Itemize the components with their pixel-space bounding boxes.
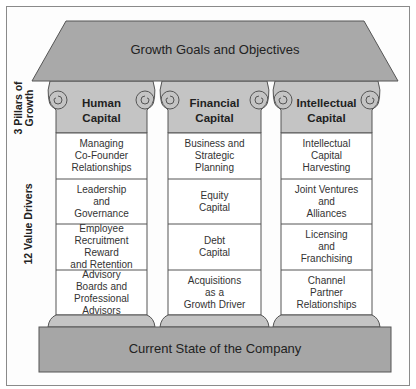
value-driver-cell: Joint VenturesandAlliances (281, 179, 372, 224)
value-driver-cell: LeadershipandGovernance (56, 179, 147, 224)
value-driver-cell: Acquisitionsas aGrowth Driver (169, 270, 260, 315)
side-label-pillars: 3 Pillars of Growth (13, 73, 37, 143)
value-driver-cell: IntellectualCapitalHarvesting (281, 133, 372, 179)
value-driver-cell: DebtCapital (169, 224, 260, 270)
roof-label: Growth Goals and Objectives (32, 42, 398, 57)
value-driver-cell: ManagingCo-FounderRelationships (56, 133, 147, 179)
value-driver-cell: LicensingandFranchising (281, 224, 372, 270)
pillar-foot-human (48, 315, 155, 327)
pillar-title-intellectual: Intellectual Capital (281, 96, 372, 126)
value-driver-cell: EmployeeRecruitmentRewardand Retention (56, 224, 147, 270)
value-driver-cell: EquityCapital (169, 179, 260, 224)
pillar-title-financial: Financial Capital (169, 96, 260, 126)
pillar-foot-financial (160, 315, 269, 327)
base-label: Current State of the Company (39, 341, 391, 356)
pillar-title-human: Human Capital (56, 96, 147, 126)
value-driver-cell: Business andStrategicPlanning (169, 133, 260, 179)
side-label-drivers: 12 Value Drivers (23, 179, 35, 269)
value-driver-cell: AdvisoryBoards andProfessionalAdvisors (56, 270, 147, 315)
pillar-foot-intellectual (273, 315, 380, 327)
value-driver-cell: ChannelPartnerRelationships (281, 270, 372, 315)
